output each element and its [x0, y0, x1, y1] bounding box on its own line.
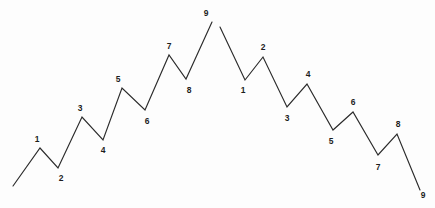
descending-pivot-label-3: 3	[285, 114, 290, 123]
ascending-pivot-label-6: 6	[145, 117, 150, 126]
ascending-pivot-label-2: 2	[59, 174, 64, 183]
wave-diagram-canvas: 123456789123456789	[0, 0, 435, 208]
ascending-wave-path	[13, 22, 212, 186]
ascending-pivot-label-3: 3	[78, 104, 83, 113]
descending-pivot-label-7: 7	[376, 163, 381, 172]
ascending-pivot-label-5: 5	[116, 75, 121, 84]
descending-pivot-label-5: 5	[329, 137, 334, 146]
descending-pivot-label-9: 9	[421, 191, 426, 200]
ascending-pivot-label-7: 7	[167, 42, 172, 51]
descending-pivot-label-4: 4	[306, 70, 311, 79]
descending-pivot-label-2: 2	[261, 43, 266, 52]
descending-pivot-label-6: 6	[351, 98, 356, 107]
ascending-pivot-label-9: 9	[204, 9, 209, 18]
wave-diagram-svg	[0, 0, 435, 208]
descending-wave-path	[220, 27, 420, 190]
descending-pivot-label-8: 8	[396, 120, 401, 129]
descending-pivot-label-1: 1	[241, 86, 246, 95]
ascending-pivot-label-4: 4	[101, 146, 106, 155]
ascending-pivot-label-8: 8	[187, 86, 192, 95]
ascending-pivot-label-1: 1	[35, 135, 40, 144]
